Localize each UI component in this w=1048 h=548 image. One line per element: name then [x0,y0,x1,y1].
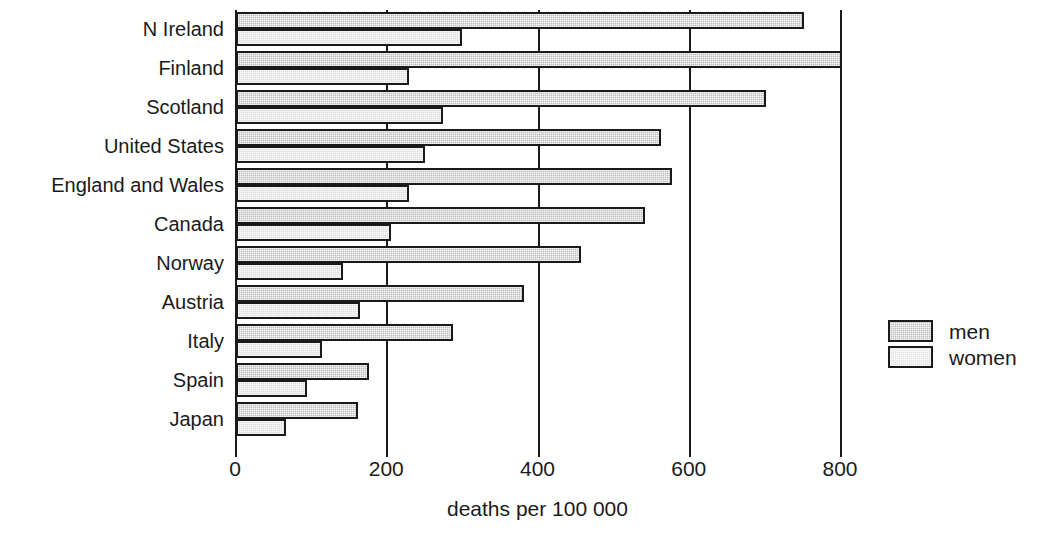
bar-men-n-ireland [236,12,804,29]
x-axis-label: deaths per 100 000 [235,498,840,519]
bar-men-england-and-wales [236,168,672,185]
gridline-600 [689,10,691,440]
bar-women-finland [236,68,409,85]
bar-women-n-ireland [236,29,462,46]
category-label-scotland: Scotland [0,97,224,117]
gridline-400 [538,10,540,440]
legend: men women [888,318,1038,370]
legend-item-women: women [888,344,1038,370]
bar-men-italy [236,324,453,341]
bar-men-spain [236,363,369,380]
bar-chart: 0200400600800 N IrelandFinlandScotlandUn… [0,0,1048,548]
x-tick-label-0: 0 [195,458,275,479]
category-label-england-and-wales: England and Wales [0,175,224,195]
bar-men-finland [236,51,842,68]
bar-women-austria [236,302,360,319]
bar-men-united-states [236,129,661,146]
bar-women-scotland [236,107,443,124]
category-label-japan: Japan [0,409,224,429]
bar-men-canada [236,207,645,224]
bar-women-spain [236,380,307,397]
legend-swatch-men-icon [888,320,933,342]
bar-women-united-states [236,146,425,163]
category-label-austria: Austria [0,292,224,312]
bar-women-italy [236,341,322,358]
category-label-italy: Italy [0,331,224,351]
legend-swatch-women-icon [888,346,933,368]
x-tick-600 [689,440,691,457]
bar-men-japan [236,402,358,419]
category-label-norway: Norway [0,253,224,273]
gridline-800 [840,10,842,440]
category-label-n-ireland: N Ireland [0,19,224,39]
category-label-canada: Canada [0,214,224,234]
x-tick-label-600: 600 [649,458,729,479]
bar-women-japan [236,419,286,436]
plot-area: 0200400600800 N IrelandFinlandScotlandUn… [0,0,1048,548]
x-tick-400 [538,440,540,457]
bar-men-norway [236,246,581,263]
bar-women-norway [236,263,343,280]
x-tick-label-200: 200 [346,458,426,479]
x-tick-label-400: 400 [498,458,578,479]
x-tick-0 [235,440,237,457]
x-tick-800 [840,440,842,457]
x-tick-label-800: 800 [800,458,880,479]
bar-women-canada [236,224,391,241]
bar-men-austria [236,285,524,302]
legend-label-women: women [949,347,1017,368]
x-tick-200 [386,440,388,457]
bar-women-england-and-wales [236,185,409,202]
bar-men-scotland [236,90,766,107]
legend-label-men: men [949,321,990,342]
category-label-united-states: United States [0,136,224,156]
category-label-finland: Finland [0,58,224,78]
legend-item-men: men [888,318,1038,344]
category-label-spain: Spain [0,370,224,390]
